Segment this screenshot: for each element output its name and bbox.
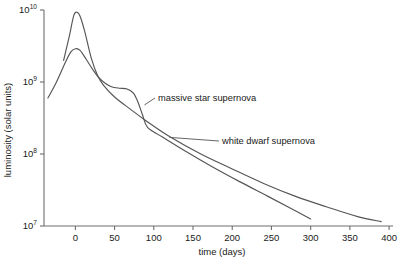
supernova-light-curve-figure: 1071081091010 050100150200250300350400 t… [0, 0, 405, 259]
x-tick-label: 150 [185, 232, 201, 243]
chart-svg: 1071081091010 050100150200250300350400 t… [0, 0, 405, 259]
x-tick-label: 100 [146, 232, 162, 243]
annotations-group: massive star supernova white dwarf super… [144, 93, 315, 146]
x-tick-label: 250 [264, 232, 280, 243]
y-tick-marks [40, 10, 44, 226]
axes-group [40, 10, 393, 230]
y-tick-label: 107 [23, 219, 38, 231]
series-line-white-dwarf-supernova [64, 12, 382, 222]
x-tick-marks [75, 226, 389, 230]
y-tick-labels: 1071081091010 [19, 3, 37, 231]
y-axis-title: luminosity (solar units) [2, 83, 13, 178]
y-tick-label: 109 [23, 75, 38, 87]
x-tick-labels: 050100150200250300350400 [73, 232, 397, 243]
x-tick-label: 50 [109, 232, 120, 243]
x-axis-title: time (days) [199, 246, 246, 257]
series-line-massive-star-supernova [48, 49, 311, 219]
y-tick-label: 108 [23, 147, 38, 159]
x-tick-label: 300 [303, 232, 319, 243]
leader-line-massive-star [144, 98, 155, 105]
x-tick-label: 200 [224, 232, 240, 243]
x-tick-label: 350 [342, 232, 358, 243]
y-tick-label: 1010 [19, 3, 37, 15]
x-tick-label: 400 [381, 232, 397, 243]
series-group [48, 12, 381, 222]
x-tick-label: 0 [73, 232, 78, 243]
annotation-white-dwarf-supernova: white dwarf supernova [221, 136, 316, 146]
annotation-massive-star-supernova: massive star supernova [158, 93, 257, 103]
